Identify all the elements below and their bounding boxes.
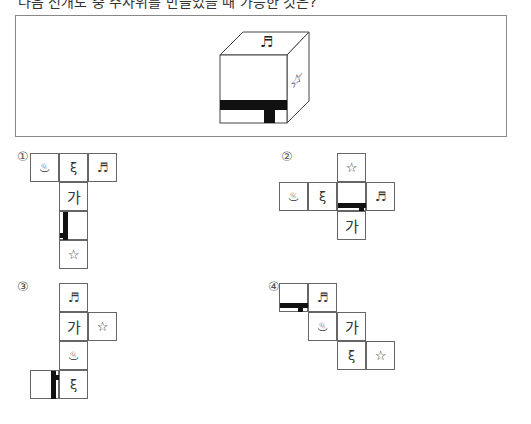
hot-spring-icon: ♨ [288, 190, 300, 203]
hangul-ga-label: 가 [67, 316, 81, 337]
t-bar-stem [60, 233, 64, 238]
cube-top-symbol: ♬ [260, 33, 273, 51]
option-1-number[interactable]: ① [17, 149, 29, 164]
star-icon: ☆ [97, 320, 109, 333]
star-icon: ☆ [68, 248, 80, 261]
net-face-pattern [279, 283, 308, 312]
music-note-icon: ♬ [97, 161, 109, 174]
star-icon: ☆ [375, 349, 387, 362]
hot-spring-icon: ♨ [317, 320, 329, 333]
net-face: ♬ [59, 283, 88, 312]
net-face-pattern [337, 182, 366, 211]
net-face: ♨ [308, 312, 337, 341]
xi-icon: ξ [319, 190, 326, 203]
net-face: ξ [308, 182, 337, 211]
net-face: ♨ [279, 182, 308, 211]
net-face: ξ [59, 370, 88, 399]
net-face: ♨ [30, 153, 59, 182]
music-note-icon: ♬ [68, 291, 80, 304]
net-face: ♨ [59, 341, 88, 370]
net-face: ☆ [366, 341, 395, 370]
xi-icon: ξ [70, 378, 77, 391]
option-3-number[interactable]: ③ [17, 279, 29, 294]
net-face: ♬ [88, 153, 117, 182]
hot-spring-icon: ♨ [68, 349, 80, 362]
net-face: 가 [337, 312, 366, 341]
question-text: 다음 전개도 중 주사위를 만들었을 때 가능한 것은? [18, 0, 317, 11]
net-face: ☆ [337, 153, 366, 182]
hot-spring-icon: ♨ [39, 161, 51, 174]
hangul-ga-label: 가 [345, 316, 359, 337]
option-2-number[interactable]: ② [281, 149, 293, 164]
net-face: ☆ [59, 240, 88, 269]
net-face: ξ [337, 341, 366, 370]
net-face: ♬ [366, 182, 395, 211]
star-icon: ☆ [346, 161, 358, 174]
cube-figure: ♬ ☆ [210, 25, 320, 139]
net-face: ☆ [88, 312, 117, 341]
t-bar-stem [298, 307, 303, 312]
hangul-ga-label: 가 [345, 215, 359, 236]
music-note-icon: ♬ [375, 190, 387, 203]
t-bar-stroke [280, 303, 308, 308]
option-4-number[interactable]: ④ [268, 279, 280, 294]
net-face: 가 [59, 312, 88, 341]
net-face: 가 [337, 211, 366, 240]
xi-icon: ξ [70, 161, 77, 174]
net-face: ξ [59, 153, 88, 182]
music-note-icon: ♬ [317, 291, 329, 304]
net-face: 가 [59, 182, 88, 211]
net-face-pattern [30, 370, 59, 399]
xi-icon: ξ [348, 349, 355, 362]
hangul-ga-label: 가 [67, 186, 81, 207]
net-face: ♬ [308, 283, 337, 312]
net-face-pattern [59, 211, 88, 240]
